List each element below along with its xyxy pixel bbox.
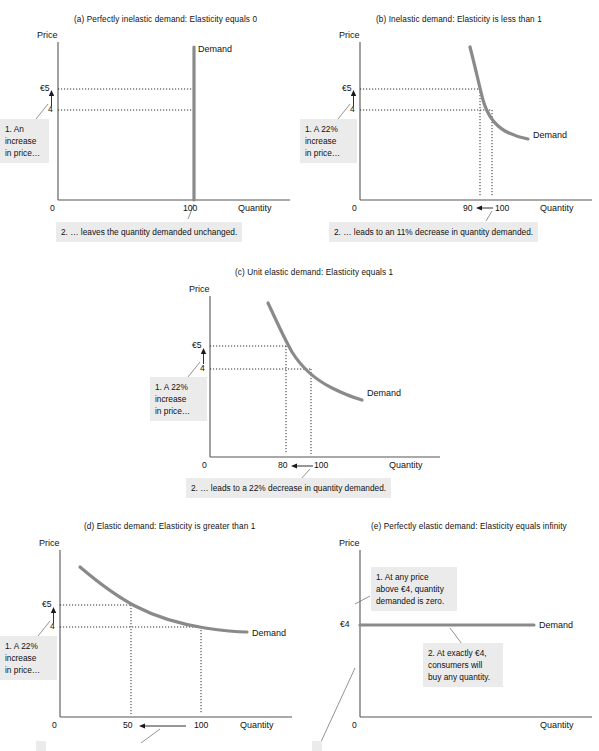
- panel-e-demand-label: Demand: [539, 620, 573, 630]
- panel-b: (b) Inelastic demand: Elasticity is less…: [300, 0, 599, 250]
- panel-c-origin-label: 0: [202, 460, 207, 470]
- panel-c-qty-arrow-head: [291, 464, 297, 469]
- panel-b-origin-label: 0: [352, 203, 357, 213]
- panel-d-y-tick-4: 4: [50, 621, 55, 631]
- panel-c-x-axis-label: Quantity: [389, 460, 423, 470]
- panel-b-demand-curve: [470, 47, 528, 139]
- panel-d-origin-label: 0: [52, 720, 57, 730]
- panel-e-note1-leader: [355, 596, 370, 604]
- panel-b-x-axis-label: Quantity: [540, 203, 574, 213]
- panel-b-y-tick-4: 4: [350, 104, 355, 114]
- panel-e: (e) Perfectly elastic demand: Elasticity…: [300, 510, 599, 744]
- panel-e-note-1: 1. At any price above €4, quantity deman…: [371, 567, 457, 611]
- panel-a-y-tick-4: 4: [48, 104, 53, 114]
- panel-a-note-2: 2. … leaves the quantity demanded unchan…: [56, 222, 242, 242]
- panel-c: (c) Unit elastic demand: Elasticity equa…: [150, 262, 480, 512]
- panel-e-note-3: [312, 741, 322, 751]
- panel-d-note2-leader: [141, 729, 160, 743]
- panel-e-y-axis-label: Price: [339, 538, 360, 548]
- panel-a-y-tick-5: €5: [40, 83, 50, 93]
- panel-d-x-axis-label: Quantity: [240, 720, 274, 730]
- panel-c-note-1: 1. A 22% increase in price…: [150, 377, 207, 421]
- panel-b-qty-arrow-head: [476, 206, 482, 211]
- panel-d-x-tick-50: 50: [123, 720, 133, 730]
- panel-d-demand-curve: [80, 567, 247, 632]
- panel-c-y-tick-4: 4: [200, 363, 205, 373]
- panel-b-note-1: 1. A 22% increase in price…: [300, 119, 357, 163]
- panel-d: (d) Elastic demand: Elasticity is greate…: [0, 510, 300, 744]
- panel-b-x-tick-100: 100: [495, 203, 509, 213]
- panel-c-demand-curve: [268, 303, 362, 400]
- panel-d-x-tick-100: 100: [194, 720, 208, 730]
- panel-b-y-axis-label: Price: [339, 30, 360, 40]
- panel-c-note-2: 2. … leads to a 22% decrease in quantity…: [186, 478, 391, 498]
- panel-c-x-tick-100: 100: [314, 460, 328, 470]
- panel-d-demand-label: Demand: [252, 628, 286, 638]
- panel-a-demand-label: Demand: [198, 44, 232, 54]
- panel-b-note2-leader: [486, 211, 492, 221]
- panel-b-x-tick-90: 90: [463, 203, 473, 213]
- panel-a-y-axis-label: Price: [37, 30, 58, 40]
- panel-c-x-tick-80: 80: [278, 460, 288, 470]
- panel-d-y-tick-5: €5: [42, 599, 52, 609]
- panel-e-note3-leader: [320, 668, 355, 744]
- panel-a-origin-label: 0: [50, 203, 55, 213]
- panel-d-note-2: [36, 741, 46, 751]
- panel-e-x-axis-label: Quantity: [540, 720, 574, 730]
- panel-e-note-2: 2. At exactly €4, consumers will buy any…: [423, 643, 503, 687]
- panel-b-y-tick-5: €5: [342, 83, 352, 93]
- panel-b-note-2: 2. … leads to an 11% decrease in quantit…: [329, 222, 538, 242]
- panel-d-note-1: 1. A 22% increase in price…: [0, 636, 57, 680]
- panel-b-demand-label: Demand: [533, 130, 567, 140]
- panel-e-origin-label: 0: [352, 720, 357, 730]
- panel-a-note-1: 1. An increase in price…: [0, 119, 49, 163]
- panel-d-qty-arrow-head: [139, 724, 145, 729]
- panel-a-x-axis-label: Quantity: [238, 203, 272, 213]
- panel-a-x-tick-100: 100: [183, 203, 197, 213]
- panel-e-y-tick-4: €4: [340, 619, 350, 629]
- panel-a: (a) Perfectly inelastic demand: Elastici…: [0, 0, 300, 250]
- panel-e-note2-leader: [450, 628, 462, 644]
- panel-c-y-tick-5: €5: [192, 340, 202, 350]
- panel-d-y-axis-label: Price: [39, 538, 60, 548]
- panel-c-demand-label: Demand: [367, 388, 401, 398]
- panel-c-y-axis-label: Price: [189, 284, 210, 294]
